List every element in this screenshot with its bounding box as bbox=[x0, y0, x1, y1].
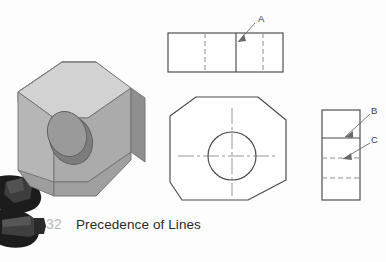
page-number: 32 bbox=[46, 216, 62, 232]
dark-blob-lower bbox=[0, 209, 46, 248]
top-view: A bbox=[168, 13, 283, 72]
top-view-outline bbox=[168, 33, 283, 72]
right-side-view: B C bbox=[322, 105, 378, 200]
label-b: B bbox=[371, 105, 377, 116]
isometric-block-with-hole bbox=[18, 62, 145, 196]
label-c: C bbox=[371, 134, 378, 145]
slide-page: A B C 3 bbox=[0, 0, 386, 262]
front-view bbox=[170, 97, 286, 200]
caption: 32 Precedence of Lines bbox=[46, 216, 201, 232]
caption-title: Precedence of Lines bbox=[76, 217, 201, 232]
label-a: A bbox=[258, 13, 265, 24]
right-view-outline bbox=[322, 110, 360, 200]
front-view-outline bbox=[170, 97, 286, 200]
